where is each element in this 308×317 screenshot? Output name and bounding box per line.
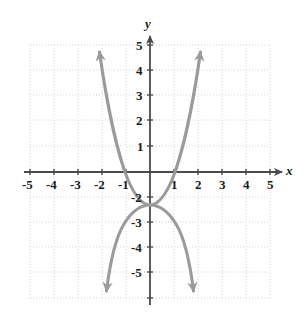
x-tick-label-3: 3: [219, 178, 226, 191]
x-tick-label-1: 1: [171, 178, 178, 191]
x-axis-label: x: [286, 164, 293, 177]
y-tick-label-5: 5: [136, 39, 143, 52]
y-axis-label: y: [145, 17, 151, 30]
x-tick-label-4: 4: [243, 178, 250, 191]
x-tick-label--3: -3: [70, 178, 81, 191]
x-tick-label-5: 5: [267, 178, 274, 191]
y-tick-label--2: -2: [131, 191, 142, 204]
axis-lines: [24, 36, 282, 305]
x-tick-label--2: -2: [94, 178, 105, 191]
x-tick-label--1: -1: [118, 178, 129, 191]
x-tick-label--5: -5: [22, 178, 33, 191]
y-tick-label--4: -4: [131, 241, 142, 254]
coordinate-plane-svg: [0, 0, 308, 317]
graph-figure: -5 -4 -3 -2 -1 1 2 3 4 5 5 4 3 2 1 -2 -3…: [0, 0, 308, 317]
y-tick-label-4: 4: [136, 64, 143, 77]
y-tick-label-3: 3: [136, 89, 143, 102]
y-tick-label-2: 2: [136, 114, 143, 127]
y-tick-label--3: -3: [131, 216, 142, 229]
x-tick-label--4: -4: [46, 178, 57, 191]
y-tick-label--5: -5: [131, 266, 142, 279]
x-tick-label-2: 2: [195, 178, 202, 191]
y-tick-label-1: 1: [137, 140, 144, 153]
